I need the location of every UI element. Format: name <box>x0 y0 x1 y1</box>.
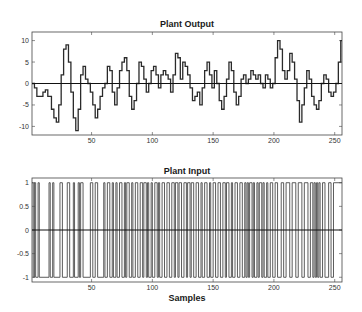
plots-canvas: 501001502002501050-5-10 5010015020025010… <box>0 0 362 312</box>
y-tick-label: 0 <box>25 80 29 87</box>
y-tick-label: -5 <box>23 101 29 108</box>
figure: Plant Output Plant Input Samples 5010015… <box>0 0 362 312</box>
x-tick-label: 150 <box>207 137 219 144</box>
y-tick-label: -10 <box>19 123 29 130</box>
y-tick-label: 5 <box>25 59 29 66</box>
plant-output-axes: 501001502002501050-5-10 <box>19 32 342 144</box>
y-tick-label: -0.5 <box>17 250 29 257</box>
x-tick-label: 150 <box>207 284 219 291</box>
y-tick-label: 0 <box>25 227 29 234</box>
y-tick-label: 1 <box>25 179 29 186</box>
x-tick-label: 200 <box>268 284 280 291</box>
x-tick-label: 50 <box>88 284 96 291</box>
y-tick-label: -1 <box>23 274 29 281</box>
y-tick-label: 10 <box>21 37 29 44</box>
y-tick-label: 0.5 <box>19 203 29 210</box>
x-tick-label: 50 <box>88 137 96 144</box>
x-tick-label: 200 <box>268 137 280 144</box>
plant-input-axes: 5010015020025010.50-0.5-1 <box>17 178 342 291</box>
x-tick-label: 250 <box>329 284 341 291</box>
x-tick-label: 100 <box>147 284 159 291</box>
x-tick-label: 250 <box>329 137 341 144</box>
x-tick-label: 100 <box>147 137 159 144</box>
